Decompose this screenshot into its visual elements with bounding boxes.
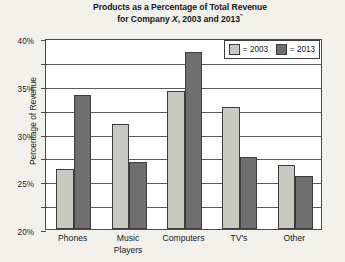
chart-title-footnote-mark: "	[240, 13, 243, 19]
bar-2003-phones	[56, 169, 74, 229]
bar-2013-other	[295, 176, 313, 229]
y-axis-tick-label: 25%	[18, 180, 34, 189]
chart-title-line-2-suffix: , 2003 and 2013	[178, 14, 240, 24]
bar-2013-phones	[74, 95, 92, 229]
chart-legend: = 2003 = 2013	[224, 40, 320, 59]
bar-2003-computers	[167, 91, 185, 229]
bar-chart: Products as a Percentage of Total Revenu…	[0, 0, 345, 262]
x-axis-label-other: Other	[254, 233, 334, 245]
legend-label-2013: = 2013	[290, 45, 315, 54]
y-axis-tick: 0%	[41, 231, 46, 232]
bar-2013-computers	[185, 52, 203, 229]
y-axis-title: Percentage of Revenue	[28, 41, 38, 201]
legend-label-2003: = 2003	[243, 45, 268, 54]
y-axis-tick-label: 40%	[18, 37, 34, 46]
legend-swatch-2003-icon	[229, 44, 240, 55]
bar-2003-other	[278, 165, 296, 229]
plot-area: 40%35%30%25%20%15%10%5%0%	[45, 39, 322, 230]
y-axis-tick-label: 35%	[18, 84, 34, 93]
legend-entry-2013: = 2013	[276, 44, 315, 55]
bars-layer	[46, 40, 321, 229]
y-axis-tick-label: 30%	[18, 132, 34, 141]
bar-2013-music-players	[129, 162, 147, 229]
chart-title-line-2-prefix: for Company	[117, 14, 172, 24]
bar-2003-tv's	[222, 107, 240, 229]
chart-title: Products as a Percentage of Total Revenu…	[30, 2, 330, 25]
bar-2003-music-players	[112, 124, 130, 229]
chart-title-line-1: Products as a Percentage of Total Revenu…	[93, 2, 267, 12]
bar-2013-tv's	[240, 157, 258, 229]
legend-entry-2003: = 2003	[229, 44, 268, 55]
y-axis-tick-label: 20%	[18, 228, 34, 237]
legend-swatch-2013-icon	[276, 44, 287, 55]
